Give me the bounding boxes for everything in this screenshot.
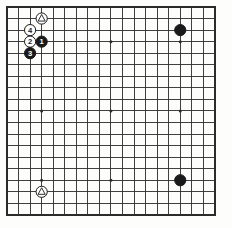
stone-move-label: 3 [28, 49, 32, 58]
black-stone-move-1[interactable]: 1 [36, 36, 47, 47]
go-board-diagram: 4213 [0, 0, 232, 228]
star-point [40, 179, 43, 182]
white-stone-marked-top[interactable] [36, 13, 47, 24]
white-stone-marked-bottom[interactable] [36, 186, 47, 197]
star-point [109, 179, 112, 182]
black-stone-bottom-right[interactable] [175, 175, 186, 186]
black-stone[interactable] [175, 25, 186, 36]
star-point [109, 40, 112, 43]
white-stone-move-4[interactable]: 4 [25, 25, 36, 36]
star-point [40, 109, 43, 112]
star-point [179, 40, 182, 43]
black-stone[interactable] [175, 175, 186, 186]
star-point [179, 109, 182, 112]
white-stone-move-2[interactable]: 2 [25, 36, 36, 47]
go-board[interactable]: 4213 [0, 0, 232, 228]
star-point [109, 109, 112, 112]
black-stone-move-3[interactable]: 3 [25, 48, 36, 59]
black-stone-top-right[interactable] [175, 25, 186, 36]
stone-move-label: 2 [28, 37, 32, 46]
